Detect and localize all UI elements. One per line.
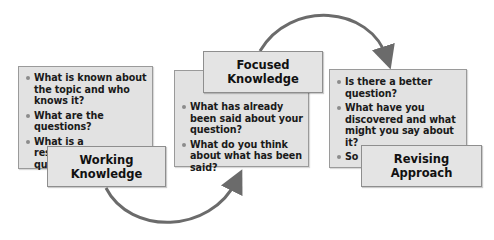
- bullet-item: What do you think about what has been sa…: [180, 139, 304, 174]
- bullet-item: What has already been said about your qu…: [180, 101, 304, 136]
- focused-knowledge-title: Focused Knowledge: [203, 51, 323, 93]
- bullet-item: What is known about the topic and who kn…: [24, 72, 148, 107]
- title-line: Knowledge: [48, 167, 165, 181]
- revising-approach-title: Revising Approach: [361, 145, 482, 187]
- working-knowledge-title: Working Knowledge: [47, 146, 166, 187]
- bullet-item: Is there a better question?: [335, 76, 463, 99]
- bullet-item: What are the questions?: [24, 110, 148, 133]
- title-line: Working: [48, 153, 165, 167]
- title-line: Approach: [362, 166, 481, 180]
- bullet-item: What have you discovered and what might …: [335, 102, 463, 148]
- title-line: Revising: [362, 152, 481, 166]
- focused-knowledge-bullets: What has already been said about your qu…: [180, 101, 304, 173]
- title-line: Knowledge: [204, 72, 322, 86]
- title-line: Focused: [204, 58, 322, 72]
